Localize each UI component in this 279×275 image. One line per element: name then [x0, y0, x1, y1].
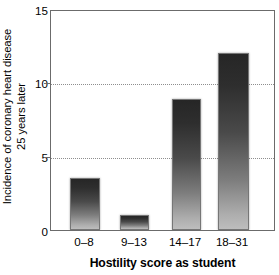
x-axis-tick-labels: 0–8 9–13 14–17 18–31 — [50, 236, 275, 252]
y-tick-label-0: 0 — [22, 226, 48, 238]
plot-area — [50, 10, 275, 231]
bar-18-31 — [218, 53, 249, 230]
y-tick-label-15: 15 — [22, 5, 48, 17]
bar-chart: Incidence of coronary heart disease 25 y… — [0, 0, 279, 275]
y-axis-title-line-1: Incidence of coronary heart disease — [2, 28, 16, 203]
x-axis-title: Hostility score as student — [50, 256, 275, 270]
x-tick-label-18-31: 18–31 — [202, 236, 262, 248]
y-axis-tick-labels: 15 10 5 0 — [16, 0, 48, 275]
bar-14-17 — [172, 99, 201, 230]
bar-9-13 — [120, 215, 149, 230]
bar-0-8 — [70, 178, 100, 230]
